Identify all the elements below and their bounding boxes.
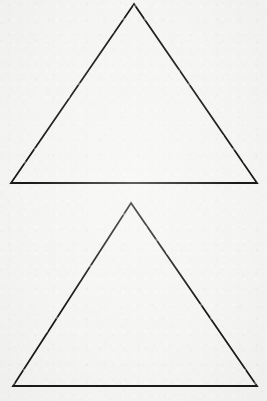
lower-triangle [13, 203, 257, 386]
figure-canvas [0, 0, 267, 401]
line-drawing-svg [0, 0, 267, 401]
upper-triangle [11, 4, 257, 183]
